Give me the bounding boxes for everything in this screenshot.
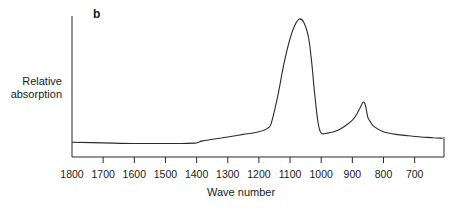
absorption-chart: 1800170016001500140013001200110010009008… [0, 0, 457, 210]
x-ticks: 1800170016001500140013001200110010009008… [60, 157, 423, 180]
x-tick-label: 1000 [310, 168, 334, 180]
x-tick-label: 1400 [185, 168, 209, 180]
x-tick-label: 900 [344, 168, 362, 180]
x-axis [72, 137, 444, 157]
x-tick-label: 1800 [60, 168, 84, 180]
y-axis-label: Relative absorption [4, 75, 62, 101]
y-axis-label-line1: Relative [4, 75, 62, 88]
x-tick-label: 1300 [216, 168, 240, 180]
x-tick-label: 1200 [247, 168, 271, 180]
x-tick-label: 1700 [91, 168, 115, 180]
spectrum-line [72, 19, 443, 144]
x-tick-label: 1600 [123, 168, 147, 180]
y-axis-label-line2: absorption [4, 88, 62, 101]
x-tick-label: 800 [375, 168, 393, 180]
x-tick-label: 700 [406, 168, 424, 180]
panel-label: b [93, 7, 100, 21]
x-tick-label: 1100 [279, 168, 302, 180]
x-tick-label: 1500 [154, 168, 178, 180]
x-axis-label: Wave number [207, 186, 275, 198]
